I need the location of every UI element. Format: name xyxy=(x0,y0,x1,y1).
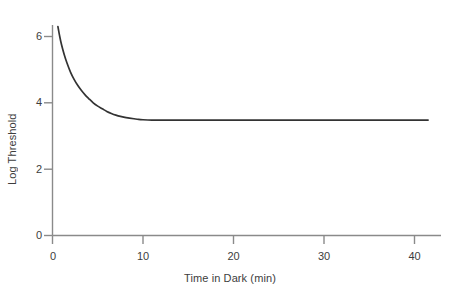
chart-container: 0 2 4 6 0 10 20 30 40 Time in Dark (min)… xyxy=(0,0,460,298)
data-series-line xyxy=(58,27,428,121)
y-tick-label-6: 6 xyxy=(12,31,42,42)
x-tick-label-0: 0 xyxy=(33,251,73,262)
y-axis-ticks xyxy=(44,37,53,236)
y-axis-title: Log Threshold xyxy=(4,94,20,204)
x-axis-ticks xyxy=(53,236,415,245)
x-tick-label-20: 20 xyxy=(214,251,254,262)
y-tick-label-0: 0 xyxy=(12,230,42,241)
x-axis-title: Time in Dark (min) xyxy=(0,272,460,284)
x-tick-label-40: 40 xyxy=(395,251,435,262)
x-tick-label-10: 10 xyxy=(123,251,163,262)
x-tick-label-30: 30 xyxy=(304,251,344,262)
